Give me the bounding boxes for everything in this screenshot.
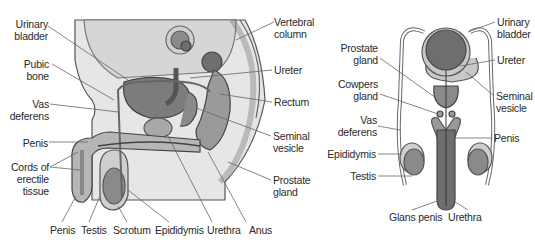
label-ureter-right: Ureter	[497, 54, 525, 66]
label-cords-erectile-tissue: Cords of erectile tissue	[2, 161, 49, 197]
label-epididymis-right: Epididymis	[316, 148, 376, 160]
label-rectum: Rectum	[274, 96, 309, 108]
label-scrotum: Scrotum	[113, 224, 151, 236]
label-urinary-bladder-right: Urinary bladder	[497, 16, 531, 40]
label-vas-deferens-left: Vas deferens	[2, 98, 49, 122]
sagittal-view	[72, 20, 265, 210]
label-penis-right: Penis	[494, 132, 519, 144]
label-penis-side: Penis	[2, 137, 48, 149]
label-urinary-bladder-left: Urinary bladder	[2, 18, 48, 42]
label-urethra-left: Urethra	[207, 224, 241, 236]
label-glans-penis: Glans penis	[389, 211, 442, 223]
label-prostate-gland-left: Prostate gland	[273, 174, 311, 198]
label-cowpers-gland: Cowpers gland	[330, 78, 378, 102]
frontal-view	[399, 28, 493, 210]
label-urethra-right: Urethra	[448, 211, 482, 223]
label-prostate-gland-right: Prostate gland	[330, 42, 378, 66]
label-ureter-left: Ureter	[274, 64, 302, 76]
label-pubic-bone: Pubic bone	[2, 58, 49, 82]
label-testis-right: Testis	[330, 170, 376, 182]
anatomy-illustration	[0, 0, 535, 246]
label-penis-bottom: Penis	[50, 224, 75, 236]
label-seminal-vesicle-right: Seminal vesicle	[496, 90, 533, 114]
label-seminal-vesicle-left: Seminal vesicle	[273, 130, 310, 154]
label-anus: Anus	[249, 224, 272, 236]
label-vas-deferens-right: Vas deferens	[330, 114, 377, 138]
label-vertebral-column: Vertebral column	[274, 16, 314, 40]
label-testis-left: Testis	[81, 224, 107, 236]
label-epididymis-left: Epididymis	[155, 224, 204, 236]
